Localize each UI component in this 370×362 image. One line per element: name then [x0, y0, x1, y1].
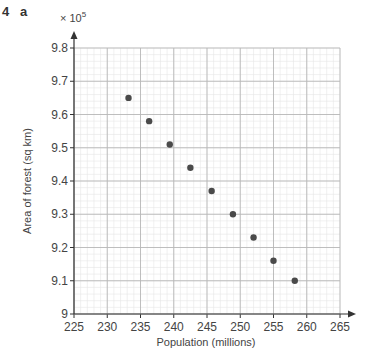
y-multiplier: × 105: [60, 10, 87, 24]
y-tick-label: 9.7: [51, 74, 68, 88]
x-axis-label: Population (millions): [156, 336, 255, 348]
y-tick-label: 9.6: [51, 108, 68, 122]
data-point: [125, 95, 131, 101]
y-tick-label: 9.2: [51, 241, 68, 255]
x-tick-label: 255: [263, 320, 283, 334]
data-point: [146, 118, 152, 124]
data-point: [230, 211, 236, 217]
multiplier-base: × 10: [60, 12, 82, 24]
data-point: [270, 258, 276, 264]
y-tick-labels: 99.19.29.39.49.59.69.79.8: [51, 41, 68, 321]
x-tick-label: 225: [64, 320, 84, 334]
y-tick-label: 9: [61, 307, 68, 321]
multiplier-exponent: 5: [82, 10, 87, 19]
x-tick-label: 230: [97, 320, 117, 334]
scatter-chart: 225230235240245250255260265 99.19.29.39.…: [0, 0, 370, 362]
x-tick-label: 260: [297, 320, 317, 334]
data-point: [250, 234, 256, 240]
x-tick-label: 240: [164, 320, 184, 334]
y-axis-arrow-icon: [71, 31, 78, 39]
y-tick-label: 9.8: [51, 41, 68, 55]
data-point: [208, 188, 214, 194]
y-tick-label: 9.5: [51, 141, 68, 155]
x-tick-label: 250: [230, 320, 250, 334]
y-tick-label: 9.3: [51, 207, 68, 221]
x-tick-label: 235: [130, 320, 150, 334]
x-tick-label: 245: [197, 320, 217, 334]
y-tick-label: 9.4: [51, 174, 68, 188]
data-points: [125, 95, 298, 284]
y-tick-label: 9.1: [51, 274, 68, 288]
data-point: [167, 141, 173, 147]
y-axis-label: Area of forest (sq km): [21, 128, 33, 234]
data-point: [187, 165, 193, 171]
x-tick-labels: 225230235240245250255260265: [64, 320, 350, 334]
major-grid: [70, 48, 340, 318]
data-point: [292, 278, 298, 284]
x-tick-label: 265: [330, 320, 350, 334]
x-axis-arrow-icon: [348, 311, 356, 318]
